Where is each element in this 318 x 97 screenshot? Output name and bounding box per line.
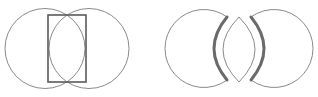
figure-overlapping-circles	[5, 9, 129, 89]
inscribed-rectangle	[48, 15, 86, 82]
figure-crescents-and-lens	[165, 9, 313, 87]
diagram-svg	[0, 0, 318, 97]
left-crescent-cut-arc	[214, 17, 227, 80]
diagram-canvas	[0, 0, 318, 97]
right-crescent-outer	[251, 10, 313, 88]
right-crescent-cut-arc	[251, 17, 264, 80]
right-circle	[49, 9, 129, 89]
left-circle	[5, 9, 85, 89]
central-lens	[223, 17, 255, 82]
left-crescent-outer	[165, 9, 227, 87]
